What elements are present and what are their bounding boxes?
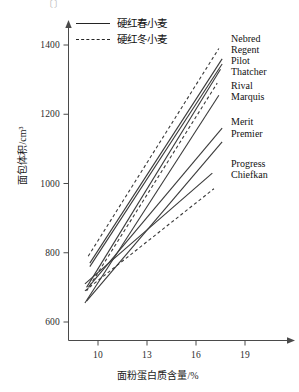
x-tick-label: 13 — [134, 350, 160, 360]
y-tick-label: 1000 — [26, 179, 60, 189]
series-label-progress: Progress — [231, 158, 265, 169]
series-label-nebred: Nebred — [231, 33, 260, 44]
legend-swatch-dashed — [76, 35, 110, 45]
y-axis-title: 面包体积/cm³ — [17, 96, 28, 216]
legend-item-spring: 硬红春小麦 — [76, 16, 206, 32]
x-axis-title: 面粉蛋白质含量/% — [88, 370, 228, 382]
series-line-progress — [85, 173, 212, 284]
series-label-marquis: Marquis — [231, 91, 264, 102]
y-tick-label: 800 — [26, 248, 60, 258]
series-line-thatcher — [87, 69, 221, 287]
x-tick-label: 16 — [183, 350, 209, 360]
series-line-rival — [87, 83, 218, 291]
series-label-thatcher: Thatcher — [231, 66, 267, 77]
chart-canvas — [0, 0, 299, 392]
legend-item-winter: 硬红冬小麦 — [76, 32, 206, 48]
series-line-nebred — [88, 48, 219, 256]
x-tick-label: 10 — [85, 350, 111, 360]
series-label-merit: Merit — [231, 116, 253, 127]
chart-figure: 〔〕 600800100012001400 10131619 面包体积/cm³ … — [0, 0, 299, 392]
series-lines — [85, 48, 222, 302]
legend-label-spring: 硬红春小麦 — [117, 18, 167, 30]
series-line-chiefkan — [85, 189, 214, 291]
series-line-premier — [87, 142, 223, 301]
legend-swatch-solid — [76, 19, 110, 29]
series-line-marquis — [85, 95, 219, 303]
series-label-regent: Regent — [231, 44, 259, 55]
y-tick-label: 600 — [26, 317, 60, 327]
y-tick-label: 1200 — [26, 109, 60, 119]
legend-label-winter: 硬红冬小麦 — [117, 34, 167, 46]
chart-legend: 硬红春小麦 硬红冬小麦 — [76, 16, 206, 48]
series-label-rival: Rival — [231, 80, 253, 91]
series-label-chiefkan: Chiefkan — [231, 169, 268, 180]
y-tick-label: 1400 — [26, 40, 60, 50]
series-label-premier: Premier — [231, 128, 263, 139]
series-label-pilot: Pilot — [231, 55, 250, 66]
x-tick-label: 19 — [232, 350, 258, 360]
series-line-regent — [90, 59, 222, 263]
